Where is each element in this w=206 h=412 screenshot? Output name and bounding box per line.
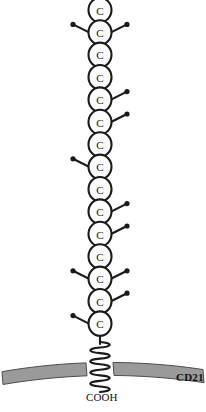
ccp-domain-letter: C [96, 5, 103, 17]
ccp-domain: C [89, 43, 112, 67]
ccp-domain: C [89, 110, 112, 134]
ccp-domain-letter: C [96, 318, 103, 330]
ccp-domain-letter: C [96, 117, 103, 129]
ccp-domain-letter: C [96, 94, 103, 106]
cd21-protein-label: CD21 [176, 372, 204, 383]
ccp-domain: C [89, 177, 112, 201]
ccp-domain: C [89, 244, 112, 268]
ccp-domain-letter: C [96, 72, 103, 84]
ccp-domain: C [89, 132, 112, 156]
ccp-domain: C [89, 65, 112, 89]
ccp-domain-letter: C [96, 49, 103, 61]
ccp-domain-chain-layer: CCCCCCCCCCCCCCC [0, 0, 206, 412]
ccp-domain-letter: C [96, 273, 103, 285]
ccp-domain-letter: C [96, 296, 103, 308]
ccp-domain: C [89, 87, 112, 111]
ccp-domain-letter: C [96, 206, 103, 218]
ccp-domain-letter: C [96, 251, 103, 263]
ccp-domains: CCCCCCCCCCCCCCC [89, 0, 112, 336]
ccp-domain: C [89, 155, 112, 179]
cooh-terminus-label: COOH [86, 392, 118, 403]
ccp-domain-letter: C [96, 161, 103, 173]
transmembrane-helix [90, 342, 110, 392]
ccp-domain: C [89, 289, 112, 313]
ccp-domain: C [89, 199, 112, 223]
ccp-domain-letter: C [96, 229, 103, 241]
cd21-receptor-diagram: CCCCCCCCCCCCCCC CD21 COOH [0, 0, 206, 412]
ccp-domain: C [89, 20, 112, 44]
ccp-domain: C [89, 311, 112, 335]
ccp-domain: C [89, 0, 112, 22]
ccp-domain-letter: C [96, 27, 103, 39]
ccp-domain-letter: C [96, 139, 103, 151]
transmembrane-helix-coil [90, 342, 110, 392]
ccp-domain: C [89, 222, 112, 246]
ccp-domain-letter: C [96, 184, 103, 196]
ccp-domain: C [89, 267, 112, 291]
